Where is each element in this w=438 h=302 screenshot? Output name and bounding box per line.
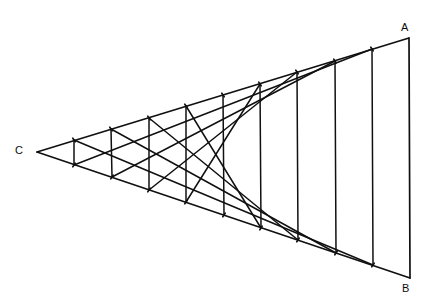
division-tick bbox=[222, 93, 224, 97]
vertex-label-c: C bbox=[15, 145, 23, 156]
chord-8-8 bbox=[335, 61, 336, 253]
geometric-figure bbox=[0, 0, 438, 302]
side-AB bbox=[409, 38, 410, 278]
diagram-canvas: A B C bbox=[0, 0, 438, 302]
vertex-label-a: A bbox=[401, 22, 409, 33]
vertex-label-b: B bbox=[402, 283, 410, 294]
chord-5-5 bbox=[223, 95, 224, 215]
chord-family bbox=[74, 49, 373, 265]
chord-7-7 bbox=[297, 72, 298, 240]
chord-2-2 bbox=[111, 129, 112, 177]
chord-6-6 bbox=[260, 84, 261, 228]
chord-9-9 bbox=[372, 49, 373, 265]
